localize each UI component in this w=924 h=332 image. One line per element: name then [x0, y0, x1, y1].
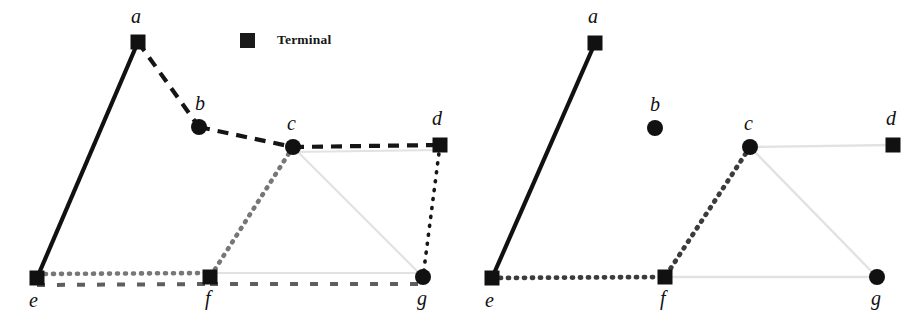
- edge-a-e-solid: [37, 42, 138, 278]
- edge-e-f-dashed: [37, 284, 210, 285]
- legend-label: Terminal: [277, 32, 331, 48]
- node-e-square[interactable]: [30, 271, 45, 286]
- left-panel: abcdefg Terminal: [0, 0, 462, 332]
- node-c-circle[interactable]: [285, 139, 301, 155]
- edge-a-b-dashed: [138, 42, 199, 127]
- node-label-g: g: [871, 288, 881, 308]
- edge-c-d-solid: [750, 145, 893, 147]
- edge-a-e-solid: [492, 43, 595, 278]
- node-label-e: e: [29, 290, 38, 310]
- right-panel: abcdefg: [462, 0, 924, 332]
- node-label-g: g: [417, 288, 427, 308]
- edge-c-g-solid: [293, 147, 423, 277]
- node-label-a: a: [588, 6, 598, 26]
- node-label-b: b: [195, 93, 205, 113]
- node-c-circle[interactable]: [742, 139, 758, 155]
- node-g-circle[interactable]: [869, 269, 885, 285]
- node-e-square[interactable]: [485, 271, 500, 286]
- node-a-square[interactable]: [131, 35, 146, 50]
- node-f-square[interactable]: [203, 270, 218, 285]
- node-b-circle[interactable]: [191, 119, 207, 135]
- edge-c-d-solid: [293, 150, 440, 152]
- edge-c-f-dotted: [665, 147, 750, 277]
- edge-e-f-dotted: [37, 273, 210, 274]
- edge-d-g-dotted: [423, 145, 440, 277]
- node-label-c: c: [287, 113, 296, 133]
- node-label-b: b: [650, 94, 660, 114]
- node-label-f: f: [660, 288, 666, 308]
- node-label-c: c: [744, 113, 753, 133]
- node-f-square[interactable]: [658, 270, 673, 285]
- node-d-square[interactable]: [433, 138, 448, 153]
- node-label-e: e: [485, 290, 494, 310]
- edge-c-g-solid: [750, 147, 877, 277]
- edge-c-f-dotted: [210, 147, 293, 277]
- edge-c-d-dashed: [293, 145, 440, 147]
- edge-b-c-dashed: [199, 127, 293, 147]
- node-label-d: d: [886, 108, 896, 128]
- node-a-square[interactable]: [588, 36, 603, 51]
- node-d-square[interactable]: [886, 138, 901, 153]
- node-label-d: d: [432, 108, 442, 128]
- terminal-square-icon: [240, 33, 255, 48]
- legend: Terminal: [240, 32, 331, 48]
- edge-e-f-dotted: [492, 277, 665, 278]
- right-panel-graph: [462, 0, 924, 332]
- node-b-circle[interactable]: [647, 120, 663, 136]
- node-g-circle[interactable]: [415, 269, 431, 285]
- node-label-a: a: [131, 6, 141, 26]
- network-diagram-figure: abcdefg Terminal abcdefg: [0, 0, 924, 332]
- left-panel-graph: [0, 0, 462, 332]
- node-label-f: f: [205, 288, 211, 308]
